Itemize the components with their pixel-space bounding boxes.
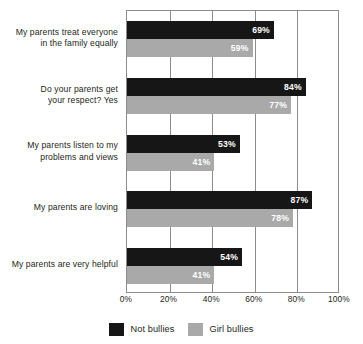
category-label: My parents listen to myproblems and view… <box>0 140 118 163</box>
bar-value-label: 41% <box>193 157 211 167</box>
bar-value-label: 77% <box>269 100 287 110</box>
bar-value-label: 69% <box>252 25 270 35</box>
x-tick-label: 100% <box>328 294 350 304</box>
chart-legend: Not bulliesGirl bullies <box>0 320 363 338</box>
x-tick-label: 0% <box>120 294 132 304</box>
category-label-line: Do your parents get <box>0 84 118 95</box>
legend-label: Girl bullies <box>209 324 253 334</box>
bar-girl-bullies: 41% <box>127 153 214 171</box>
category-label-line: problems and views <box>0 152 118 163</box>
category-label: My parents are loving <box>0 202 118 213</box>
bar-girl-bullies: 59% <box>127 39 253 57</box>
gridline <box>255 11 256 292</box>
category-label: My parents are very helpful <box>0 259 118 270</box>
bar-girl-bullies: 78% <box>127 209 293 227</box>
bar-value-label: 53% <box>218 139 236 149</box>
bar-value-label: 54% <box>220 252 238 262</box>
category-axis-labels: My parents treat everyonein the family e… <box>0 10 122 293</box>
category-label-line: My parents treat everyone <box>0 27 118 38</box>
legend-item[interactable]: Not bullies <box>109 323 174 336</box>
bar-not-bullies: 69% <box>127 21 274 39</box>
plot-area: 69%59%84%77%53%41%87%78%54%41% <box>126 10 339 293</box>
category-label-line: My parents are loving <box>0 202 118 213</box>
bar-value-label: 87% <box>290 195 308 205</box>
x-tick-label: 20% <box>160 294 177 304</box>
gridline <box>297 11 298 292</box>
bar-not-bullies: 53% <box>127 135 240 153</box>
legend-swatch-icon <box>188 323 203 336</box>
bar-not-bullies: 54% <box>127 248 242 266</box>
legend-swatch-icon <box>109 323 124 336</box>
x-tick-label: 60% <box>245 294 262 304</box>
category-label-line: My parents listen to my <box>0 140 118 151</box>
category-label-line: your respect? Yes <box>0 95 118 106</box>
category-label-line: My parents are very helpful <box>0 259 118 270</box>
bar-value-label: 84% <box>284 82 302 92</box>
x-tick-label: 80% <box>288 294 305 304</box>
category-label: My parents treat everyonein the family e… <box>0 27 118 50</box>
x-tick-label: 40% <box>203 294 220 304</box>
legend-item[interactable]: Girl bullies <box>188 323 253 336</box>
bar-not-bullies: 87% <box>127 191 312 209</box>
bar-girl-bullies: 41% <box>127 266 214 284</box>
bar-value-label: 59% <box>231 43 249 53</box>
bar-not-bullies: 84% <box>127 78 306 96</box>
category-label-line: in the family equally <box>0 38 118 49</box>
x-axis-tick-labels: 0%20%40%60%80%100% <box>126 294 339 308</box>
bar-value-label: 78% <box>271 213 289 223</box>
bar-girl-bullies: 77% <box>127 96 291 114</box>
grouped-bar-chart: My parents treat everyonein the family e… <box>0 0 363 344</box>
category-label: Do your parents getyour respect? Yes <box>0 84 118 107</box>
bar-value-label: 41% <box>193 270 211 280</box>
legend-label: Not bullies <box>130 324 174 334</box>
